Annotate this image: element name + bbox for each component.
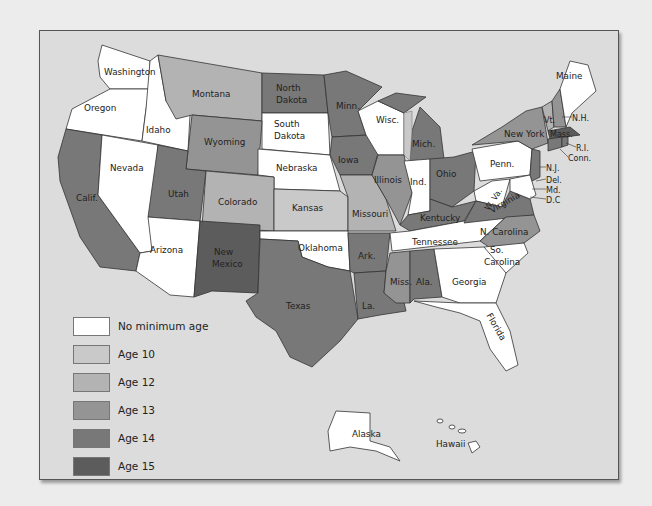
label-louisiana: La. xyxy=(362,301,375,311)
legend-item-age13: Age 13 xyxy=(73,396,208,424)
label-new-mexico-1: New xyxy=(214,247,233,257)
label-missouri: Missouri xyxy=(352,209,388,219)
label-south-carolina-2: Carolina xyxy=(484,257,520,267)
label-texas: Texas xyxy=(285,301,311,311)
label-north-carolina: N. Carolina xyxy=(480,227,528,237)
label-rhode-island: R.I. xyxy=(576,144,589,153)
label-new-york: New York xyxy=(504,129,545,139)
label-oregon: Oregon xyxy=(84,103,116,113)
lake-michigan xyxy=(404,111,412,161)
label-alabama: Ala. xyxy=(416,277,433,287)
label-tennessee: Tennessee xyxy=(411,237,458,247)
legend-item-age14: Age 14 xyxy=(73,424,208,452)
label-oklahoma: Oklahoma xyxy=(298,243,343,253)
legend: No minimum age Age 10 Age 12 Age 13 Age … xyxy=(73,312,208,480)
label-kansas: Kansas xyxy=(292,203,324,213)
state-north-dakota[interactable] xyxy=(262,73,328,113)
label-new-jersey: N.J. xyxy=(546,164,559,173)
label-vermont: Vt. xyxy=(544,116,555,125)
label-pennsylvania: Penn. xyxy=(490,159,514,169)
label-iowa: Iowa xyxy=(338,155,359,165)
label-kentucky: Kentucky xyxy=(420,213,460,223)
label-hawaii: Hawaii xyxy=(436,439,465,449)
legend-swatch-age15 xyxy=(73,457,110,476)
legend-item-age15: Age 15 xyxy=(73,452,208,480)
label-washington: Washington xyxy=(104,67,156,77)
label-michigan: Mich. xyxy=(412,139,435,149)
label-dc: D.C xyxy=(546,196,561,205)
legend-swatch-age14 xyxy=(73,429,110,448)
state-montana[interactable] xyxy=(158,55,262,121)
label-idaho: Idaho xyxy=(146,125,171,135)
label-nevada: Nevada xyxy=(110,163,144,173)
state-new-jersey[interactable] xyxy=(530,149,540,181)
label-connecticut: Conn. xyxy=(568,154,591,163)
label-ohio: Ohio xyxy=(436,169,456,179)
label-south-dakota-2: Dakota xyxy=(274,131,305,141)
legend-item-age12: Age 12 xyxy=(73,368,208,396)
legend-swatch-age13 xyxy=(73,401,110,420)
label-delaware: Del. xyxy=(546,176,562,185)
legend-swatch-age12 xyxy=(73,373,110,392)
state-ohio[interactable] xyxy=(430,151,476,207)
label-massachusetts: Mass. xyxy=(550,130,573,139)
label-nebraska: Nebraska xyxy=(276,163,318,173)
label-montana: Montana xyxy=(192,89,230,99)
legend-item-none: No minimum age xyxy=(73,312,208,340)
legend-label: Age 14 xyxy=(118,432,155,444)
label-indiana: Ind. xyxy=(410,177,427,187)
state-michigan[interactable] xyxy=(410,107,444,161)
label-south-dakota-1: South xyxy=(274,119,300,129)
label-wisconsin: Wisc. xyxy=(376,115,399,125)
map-frame: Washington Oregon Idaho Montana North Da… xyxy=(39,30,619,480)
legend-swatch-age10 xyxy=(73,345,110,364)
label-north-dakota-2: Dakota xyxy=(276,95,307,105)
legend-label: Age 10 xyxy=(118,348,155,360)
label-california: Calif. xyxy=(76,193,98,203)
label-georgia: Georgia xyxy=(452,277,487,287)
label-north-dakota-1: North xyxy=(276,83,301,93)
label-south-carolina-1: So. xyxy=(490,245,504,255)
label-mississippi: Miss. xyxy=(390,277,412,287)
legend-label: Age 13 xyxy=(118,404,155,416)
label-wyoming: Wyoming xyxy=(204,137,245,147)
legend-label: No minimum age xyxy=(118,320,208,332)
label-maryland: Md. xyxy=(546,186,561,195)
label-arkansas: Ark. xyxy=(358,251,376,261)
label-maine: Maine xyxy=(556,71,582,81)
legend-swatch-none xyxy=(73,317,110,336)
label-new-hampshire: N.H. xyxy=(572,114,589,123)
label-colorado: Colorado xyxy=(218,197,257,207)
label-alaska: Alaska xyxy=(352,429,381,439)
label-utah: Utah xyxy=(168,189,189,199)
legend-item-age10: Age 10 xyxy=(73,340,208,368)
label-arizona: Arizona xyxy=(150,245,183,255)
label-new-mexico-2: Mexico xyxy=(212,259,243,269)
label-illinois: Illinois xyxy=(374,175,402,185)
legend-label: Age 12 xyxy=(118,376,155,388)
state-connecticut[interactable] xyxy=(548,137,562,151)
legend-label: Age 15 xyxy=(118,460,155,472)
label-minnesota: Minn. xyxy=(336,101,360,111)
